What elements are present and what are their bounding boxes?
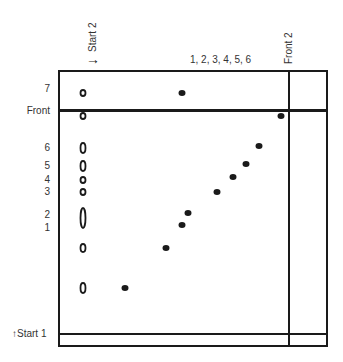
first-dimension-spot	[81, 90, 86, 96]
first-dimension-spot	[81, 161, 86, 171]
second-dimension-spot	[230, 174, 237, 180]
first-dimension-spot	[81, 143, 86, 153]
second-dimension-spot	[163, 245, 170, 251]
chromatogram-spots	[0, 0, 343, 362]
first-dimension-spot	[81, 283, 86, 293]
first-dimension-spot	[81, 189, 86, 195]
second-dimension-spot	[214, 189, 221, 195]
first-dimension-spot	[81, 208, 86, 228]
second-dimension-spot	[278, 113, 285, 119]
second-dimension-spot	[185, 210, 192, 216]
second-dimension-spot	[243, 161, 250, 167]
first-dimension-spot	[81, 113, 86, 119]
first-dimension-spot	[81, 177, 86, 183]
second-dimension-spot	[256, 143, 263, 149]
second-dimension-spot	[179, 90, 186, 96]
second-dimension-spot	[122, 285, 129, 291]
second-dimension-spot	[179, 222, 186, 228]
first-dimension-spot	[81, 244, 86, 252]
